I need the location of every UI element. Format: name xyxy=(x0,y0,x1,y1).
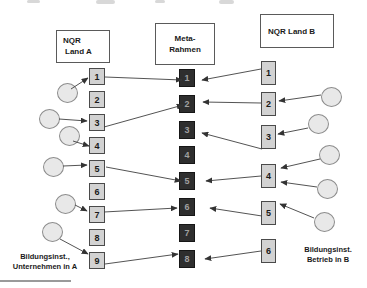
arrow-circle-b2-to-B3 xyxy=(278,128,308,134)
label-bottom-left-line2: Unternehmen in A xyxy=(4,262,86,272)
right-box-3: 3 xyxy=(261,125,276,149)
arrow-circle-b5-to-B5 xyxy=(280,204,314,218)
header-meta-rahmen-line2: Rahmen xyxy=(169,44,201,55)
arrow-A5-to-M5 xyxy=(106,167,181,181)
left-box-6: 6 xyxy=(89,183,105,200)
header-meta-rahmen-line1: Meta- xyxy=(175,33,196,44)
label-bottom-right-line2: Betrieb in B xyxy=(297,255,359,265)
institution-circle-b4 xyxy=(317,179,338,199)
arrow-circle-b3-to-B4 xyxy=(281,159,320,168)
scan-artifact xyxy=(96,0,115,4)
arrow-circle-a4-to-A5 xyxy=(63,165,87,166)
header-nqr-land-a-line2: Land A xyxy=(65,46,109,57)
page-edge-line xyxy=(0,280,71,282)
right-box-1: 1 xyxy=(261,61,276,85)
arrow-circle-a5-to-A7 xyxy=(75,205,87,211)
institution-circle-a5 xyxy=(55,194,76,214)
left-box-2: 2 xyxy=(89,91,105,108)
left-box-3: 3 xyxy=(89,114,105,131)
arrow-A7-to-M6 xyxy=(104,208,177,212)
arrow-A9-to-M8 xyxy=(105,254,178,264)
arrow-circle-b4-to-B4 xyxy=(281,182,317,187)
arrow-A1-to-M1 xyxy=(105,77,182,80)
left-box-8: 8 xyxy=(89,229,105,246)
arrow-circle-a2-to-A3 xyxy=(59,119,87,121)
institution-circle-a6 xyxy=(42,222,63,242)
diagram-canvas: NQR Land A Meta- Rahmen NQR Land B 12345… xyxy=(0,0,367,288)
institution-circle-b2 xyxy=(308,114,329,134)
right-box-4: 4 xyxy=(261,164,276,188)
header-nqr-land-b: NQR Land B xyxy=(260,14,334,48)
scan-artifact xyxy=(155,0,165,3)
left-box-5: 5 xyxy=(89,160,105,177)
left-box-7: 7 xyxy=(89,206,105,223)
arrow-B1-to-M1 xyxy=(202,69,261,80)
label-bildungsinst-betrieb-b: Bildungsinst. Betrieb in B xyxy=(297,245,359,265)
right-box-6: 6 xyxy=(261,239,276,263)
institution-circle-b5 xyxy=(314,212,335,232)
header-nqr-land-a: NQR Land A xyxy=(56,30,110,63)
institution-circle-b1 xyxy=(321,87,342,107)
meta-box-2: 2 xyxy=(179,95,195,113)
institution-circle-a4 xyxy=(43,157,64,177)
label-bildungsinst-unternehmen-a: Bildungsinst., Unternehmen in A xyxy=(4,252,86,272)
header-meta-rahmen: Meta- Rahmen xyxy=(155,23,215,65)
meta-box-8: 8 xyxy=(179,250,195,268)
institution-circle-a2 xyxy=(39,109,60,129)
header-nqr-land-b-line1: NQR Land B xyxy=(268,26,315,37)
institution-circle-a3 xyxy=(59,126,80,146)
label-bottom-right-line1: Bildungsinst. xyxy=(297,245,359,255)
right-box-5: 5 xyxy=(261,201,276,225)
arrow-B2-to-M2 xyxy=(203,102,261,103)
left-box-4: 4 xyxy=(89,137,105,154)
arrow-B4-to-M5 xyxy=(206,176,261,181)
scan-artifact xyxy=(219,0,234,4)
arrow-circle-b1-to-B2 xyxy=(279,95,321,101)
left-box-1: 1 xyxy=(89,68,105,85)
meta-box-5: 5 xyxy=(179,172,195,190)
label-bottom-left-line1: Bildungsinst., xyxy=(4,252,86,262)
meta-box-1: 1 xyxy=(179,69,195,87)
meta-box-6: 6 xyxy=(179,198,195,216)
scan-artifact xyxy=(27,0,40,3)
arrow-B5-to-M6 xyxy=(210,208,262,216)
institution-circle-b3 xyxy=(319,145,340,165)
meta-box-3: 3 xyxy=(179,121,195,139)
arrow-B3-to-M3 xyxy=(202,133,262,149)
arrow-A3-to-M2 xyxy=(104,105,183,127)
arrow-B6-to-M8 xyxy=(205,251,261,259)
meta-box-7: 7 xyxy=(179,224,195,242)
institution-circle-a1 xyxy=(57,83,78,103)
header-nqr-land-a-line1: NQR xyxy=(63,35,109,46)
right-box-2: 2 xyxy=(261,92,276,116)
left-box-9: 9 xyxy=(89,252,105,269)
meta-box-4: 4 xyxy=(179,146,195,164)
